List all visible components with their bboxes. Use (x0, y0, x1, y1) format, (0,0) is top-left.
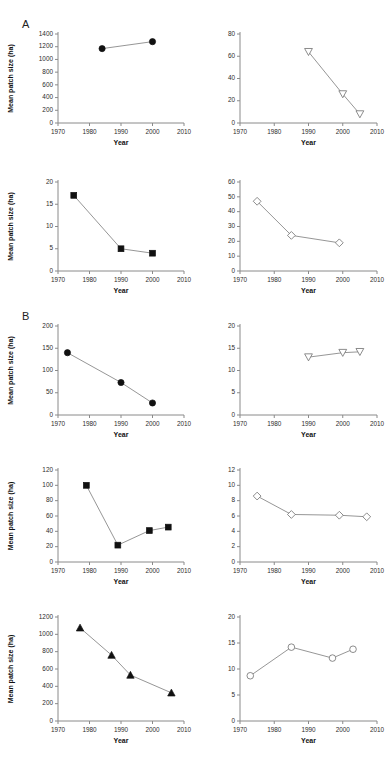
x-tick-label: 2010 (177, 420, 192, 427)
panel-b4-plot: 02468101219701980199020002010Year (196, 458, 389, 596)
x-tick-label: 2000 (145, 567, 160, 574)
x-tick-label: 2010 (370, 420, 385, 427)
y-axis-title: Mean patch size (ha) (7, 44, 15, 112)
data-point-filled-square (71, 192, 77, 198)
panel-b2: 0510152019701980199020002010Year (196, 314, 389, 449)
x-tick-label: 2010 (177, 128, 192, 135)
y-axis-title: Mean patch size (ha) (7, 192, 15, 260)
x-tick-label: 2010 (370, 128, 385, 135)
panel-c1: 0200400600800100012001970198019902000201… (0, 605, 196, 755)
y-tick-label: 200 (42, 699, 53, 706)
panel-a1: 0200400600800100012001400197019801990200… (0, 22, 196, 157)
y-tick-label: 60 (228, 178, 236, 185)
x-tick-label: 1970 (51, 726, 66, 733)
y-tick-label: 20 (46, 542, 54, 549)
x-tick-label: 1970 (233, 567, 248, 574)
panel-a1-plot: 0200400600800100012001400197019801990200… (0, 22, 196, 157)
y-tick-label: 5 (231, 691, 235, 698)
y-tick-label: 1000 (39, 55, 54, 62)
y-tick-label: 0 (49, 411, 53, 418)
x-tick-label: 1990 (114, 276, 129, 283)
y-tick-label: 50 (46, 388, 54, 395)
x-tick-label: 2000 (336, 420, 351, 427)
y-tick-label: 600 (42, 81, 53, 88)
y-tick-label: 20 (46, 178, 54, 185)
data-point-filled-circle (118, 379, 124, 385)
data-point-filled-circle (99, 46, 105, 52)
y-axis-title: Mean patch size (ha) (7, 336, 15, 404)
x-tick-label: 1980 (82, 567, 97, 574)
x-tick-label: 1970 (51, 128, 66, 135)
axis-lines (240, 324, 377, 415)
y-tick-label: 12 (228, 466, 236, 473)
x-tick-label: 1980 (82, 276, 97, 283)
data-point-open-circle (288, 644, 295, 651)
y-tick-label: 0 (49, 717, 53, 724)
x-tick-label: 1980 (267, 276, 282, 283)
x-tick-label: 1980 (82, 726, 97, 733)
x-tick-label: 2010 (370, 276, 385, 283)
y-tick-label: 0 (49, 119, 53, 126)
panel-b3: 02040608010012019701980199020002010Mean … (0, 458, 196, 596)
y-tick-label: 0 (49, 558, 53, 565)
y-tick-label: 5 (231, 388, 235, 395)
x-axis-title: Year (114, 737, 129, 744)
axis-lines (240, 32, 377, 123)
y-tick-label: 150 (42, 344, 53, 351)
y-tick-label: 50 (228, 193, 236, 200)
x-tick-label: 1990 (301, 567, 316, 574)
y-tick-label: 60 (46, 512, 54, 519)
series-line (86, 485, 168, 545)
x-tick-label: 2000 (336, 567, 351, 574)
x-tick-label: 2000 (145, 128, 160, 135)
y-tick-label: 1200 (39, 42, 54, 49)
group-label-b: B (22, 310, 29, 322)
panel-b1-plot: 05010015020019701980199020002010Mean pat… (0, 314, 196, 449)
data-point-filled-triangle-up (76, 624, 83, 631)
x-tick-label: 2000 (145, 276, 160, 283)
x-tick-label: 1990 (114, 567, 129, 574)
y-tick-label: 10 (228, 252, 236, 259)
x-tick-label: 1990 (114, 128, 129, 135)
x-tick-label: 2000 (336, 726, 351, 733)
x-axis-title: Year (301, 578, 316, 585)
series-line (80, 628, 171, 693)
panel-c2-plot: 0510152019701980199020002010Year (196, 605, 389, 755)
data-point-filled-square (115, 542, 121, 548)
y-tick-label: 1400 (39, 30, 54, 37)
data-point-open-triangle-down (305, 354, 313, 361)
x-tick-label: 2000 (336, 276, 351, 283)
figure-root: 0200400600800100012001400197019801990200… (0, 0, 389, 776)
y-axis-title: Mean patch size (ha) (7, 635, 15, 703)
panel-a4: 010203040506019701980199020002010Year (196, 170, 389, 305)
group-label-a: A (22, 18, 29, 30)
data-point-open-diamond (335, 239, 343, 247)
series-line (309, 352, 360, 357)
x-axis-title: Year (114, 139, 129, 146)
y-tick-label: 120 (42, 466, 53, 473)
x-tick-label: 2010 (370, 726, 385, 733)
y-tick-label: 0 (231, 717, 235, 724)
series-line (257, 496, 367, 517)
x-tick-label: 1990 (114, 726, 129, 733)
x-tick-label: 1970 (233, 276, 248, 283)
panel-b4: 02468101219701980199020002010Year (196, 458, 389, 596)
axis-lines (240, 180, 377, 271)
data-point-filled-square (118, 246, 124, 252)
x-tick-label: 2010 (370, 567, 385, 574)
y-tick-label: 4 (231, 527, 235, 534)
y-tick-label: 60 (228, 52, 236, 59)
y-tick-label: 400 (42, 93, 53, 100)
series-line (250, 647, 353, 676)
data-point-open-diamond (253, 492, 261, 500)
x-axis-title: Year (301, 287, 316, 294)
panel-a2-plot: 02040608019701980199020002010Year (196, 22, 389, 157)
data-point-open-diamond (335, 511, 343, 519)
panel-c2: 0510152019701980199020002010Year (196, 605, 389, 755)
x-tick-label: 1990 (301, 276, 316, 283)
panel-a2: 02040608019701980199020002010Year (196, 22, 389, 157)
y-tick-label: 8 (231, 496, 235, 503)
y-tick-label: 0 (49, 267, 53, 274)
series-line (67, 353, 152, 403)
panel-a3-plot: 0510152019701980199020002010Mean patch s… (0, 170, 196, 305)
